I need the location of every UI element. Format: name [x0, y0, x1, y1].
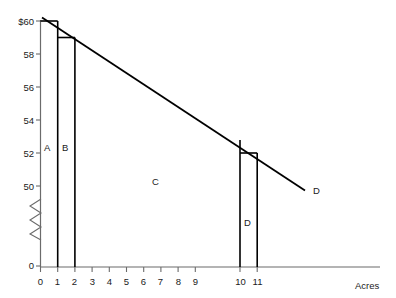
x-tick-label-9: 9 [186, 277, 205, 287]
demand-curve-label: D [313, 186, 320, 196]
axis-break-zigzag [30, 199, 41, 240]
region-label-b: B [62, 143, 68, 153]
y-tick-label-56: 56 [4, 83, 34, 93]
y-tick-label-52: 52 [4, 149, 34, 159]
demand-curve-figure: $60 58 56 54 52 50 0 0 1 2 3 4 5 6 7 8 9… [0, 0, 396, 298]
x-tick-label-2: 2 [65, 277, 84, 287]
y-tick-label-60: $60 [4, 17, 34, 27]
y-tick-label-54: 54 [4, 116, 34, 126]
region-d-rect [240, 140, 257, 267]
y-tick-label-50: 50 [4, 182, 34, 192]
y-tick-label-0: 0 [4, 261, 34, 271]
x-tick-label-7: 7 [151, 277, 170, 287]
chart-plot-area [0, 0, 396, 298]
demand-curve-line [42, 18, 305, 191]
y-tick-label-58: 58 [4, 50, 34, 60]
x-axis-title: Acres [355, 281, 379, 291]
region-label-d: D [244, 218, 251, 228]
region-label-c: C [152, 177, 159, 187]
region-label-a: A [44, 143, 50, 153]
x-axis-ticks [41, 267, 258, 272]
x-tick-label-11: 11 [248, 277, 267, 287]
